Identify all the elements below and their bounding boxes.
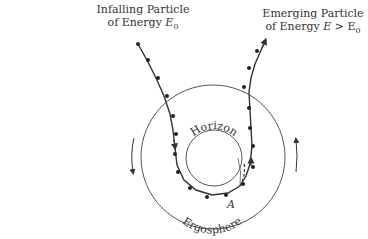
horizon-label: Horizon xyxy=(188,119,240,139)
ergosphere-label: Ergosphere xyxy=(180,215,244,237)
point-a-label: A xyxy=(226,198,235,211)
rotation-arrow-left xyxy=(132,138,134,172)
emerging-direction-arrow xyxy=(262,41,265,48)
infalling-trajectory xyxy=(138,44,240,195)
rotation-arrow-right xyxy=(296,140,297,172)
horizon-circle xyxy=(186,130,242,186)
penrose-diagram: Horizon Ergosphere A xyxy=(0,0,368,239)
ergosphere-boundary xyxy=(141,85,285,229)
